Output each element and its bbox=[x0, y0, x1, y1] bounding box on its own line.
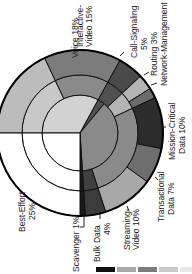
legend-swatch bbox=[117, 267, 136, 272]
label-bulk-2: 4% bbox=[103, 223, 113, 235]
label-call-signaling-1: Call-Signaling bbox=[130, 6, 140, 58]
legend-swatch bbox=[96, 267, 115, 272]
label-streaming-2: Video 10% bbox=[132, 209, 142, 250]
label-transactional-2: Data 7% bbox=[167, 182, 177, 215]
legend-swatch bbox=[180, 267, 192, 272]
legend-swatch bbox=[159, 267, 178, 272]
leader-network-management bbox=[151, 83, 157, 85]
label-scavenger: Scavenger 1% bbox=[72, 217, 82, 272]
legend-swatch bbox=[138, 267, 157, 272]
label-interactive-video-2: Video 15% bbox=[85, 6, 95, 47]
leader-call-signaling bbox=[120, 52, 124, 56]
label-network-management: Network-Management bbox=[160, 2, 170, 86]
label-mission-critical-2: Data 10% bbox=[178, 117, 188, 154]
label-best-effort-2: 25% bbox=[28, 203, 38, 220]
